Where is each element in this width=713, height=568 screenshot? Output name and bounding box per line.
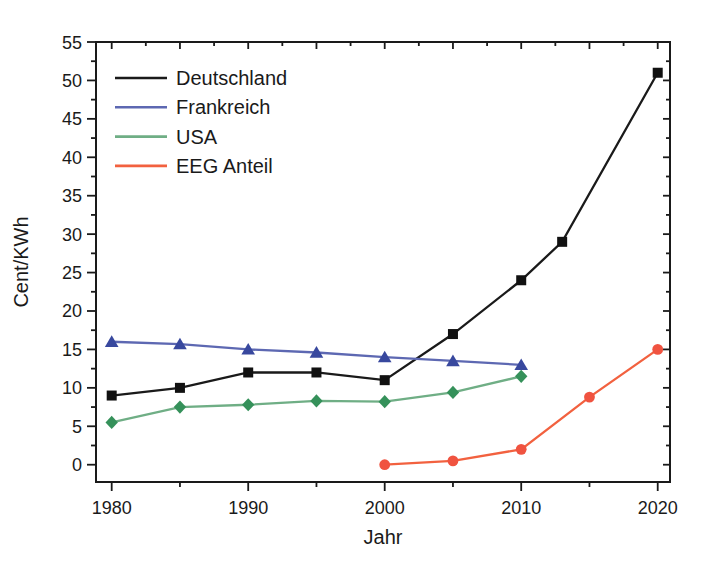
axes: 1980199020002010202005101520253035404550… [62,33,678,519]
legend-item-frankreich: Frankreich [115,96,270,118]
series-frankreich [105,335,528,370]
y-tick-label: 15 [62,340,82,360]
y-tick-label: 35 [62,186,82,206]
chart-canvas: 1980199020002010202005101520253035404550… [0,0,713,568]
x-tick-label: 2020 [638,498,678,518]
y-tick-label: 45 [62,109,82,129]
y-tick-label: 10 [62,378,82,398]
legend-label-deutschland: Deutschland [176,67,287,89]
legend-label-eeg-anteil: EEG Anteil [176,155,273,177]
y-tick-label: 50 [62,71,82,91]
x-tick-label: 2010 [501,498,541,518]
x-axis-label: Jahr [364,526,403,548]
legend-label-frankreich: Frankreich [176,96,270,118]
legend: DeutschlandFrankreichUSAEEG Anteil [115,67,287,177]
legend-item-eeg-anteil: EEG Anteil [115,155,273,177]
y-tick-label: 30 [62,225,82,245]
y-tick-label: 5 [72,417,82,437]
legend-item-deutschland: Deutschland [115,67,287,89]
y-tick-label: 20 [62,301,82,321]
legend-label-usa: USA [176,126,218,148]
legend-item-usa: USA [115,126,218,148]
y-tick-label: 40 [62,148,82,168]
y-tick-label: 0 [72,455,82,475]
x-tick-label: 1980 [92,498,132,518]
x-tick-label: 2000 [365,498,405,518]
series-usa [105,370,527,429]
y-tick-label: 55 [62,33,82,53]
chart-figure: 1980199020002010202005101520253035404550… [0,0,713,568]
x-tick-label: 1990 [228,498,268,518]
y-axis-label: Cent/KWh [10,216,32,307]
y-tick-label: 25 [62,263,82,283]
